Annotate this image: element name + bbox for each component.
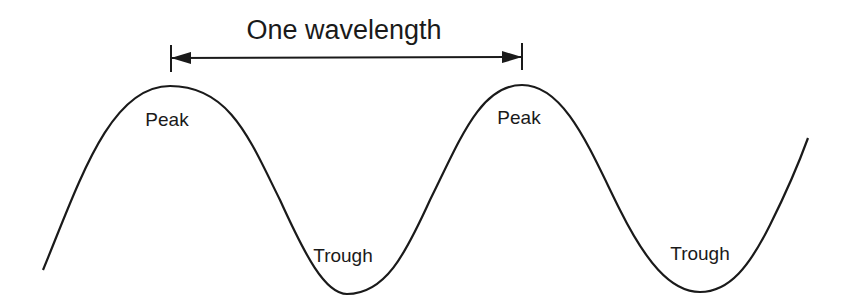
trough-label-2: Trough xyxy=(670,243,730,264)
trough-label-1: Trough xyxy=(313,245,373,266)
wave-diagram: One wavelength Peak Peak Trough Trough xyxy=(0,0,841,307)
wavelength-indicator: One wavelength xyxy=(171,15,522,72)
peak-label-2: Peak xyxy=(497,107,541,128)
peak-label-1: Peak xyxy=(145,109,189,130)
wavelength-arrow xyxy=(172,57,521,58)
wavelength-title: One wavelength xyxy=(246,15,441,45)
